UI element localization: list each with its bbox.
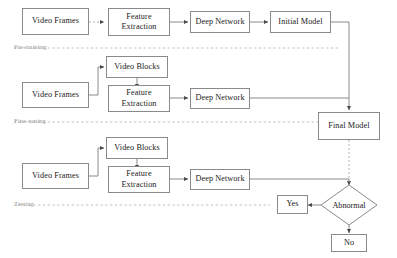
node-feature-extraction-testing[interactable]: Feature Extraction [108,166,170,193]
node-no-outcome[interactable]: No [331,234,367,252]
node-video-blocks-testing[interactable]: Video Blocks [106,137,168,159]
node-video-frames-fine-tuning[interactable]: Video Frames [22,82,89,108]
node-label: Video Frames [32,172,79,181]
node-label: Video Blocks [114,63,160,72]
node-deep-network-testing[interactable]: Deep Network [190,169,250,190]
node-label-line2: Extraction [121,22,156,32]
node-label: Deep Network [195,18,244,27]
node-label: Abnormal [332,201,365,210]
node-label: Deep Network [195,94,244,103]
node-yes-outcome[interactable]: Yes [277,195,308,214]
node-abnormal-decision[interactable]: Abnormal [321,198,377,212]
node-label: Yes [286,200,298,209]
node-final-model[interactable]: Final Model [318,112,380,140]
node-video-frames-testing[interactable]: Video Frames [22,163,89,189]
phase-label-testing: Testing [14,200,34,207]
node-label: Deep Network [195,175,244,184]
phase-label-fine-tuning: Fine-tuning [14,117,46,124]
phase-label-pre-training: Pre-training [14,43,47,50]
wire-initialmodel-to-finalmodel [331,22,349,110]
node-deep-network-fine-tuning[interactable]: Deep Network [190,88,250,109]
node-label: Final Model [328,122,369,131]
diagram-canvas: Pre-training Fine-tuning Testing Video F… [0,0,397,258]
node-label: No [344,239,354,248]
wire-frames2-to-blocks1 [89,67,104,95]
node-label-line1: Feature [126,88,151,98]
node-feature-extraction-fine-tuning[interactable]: Feature Extraction [108,85,170,112]
node-label: Video Frames [32,17,79,26]
node-label-line2: Extraction [121,180,156,190]
node-label: Video Frames [32,91,79,100]
node-label-line1: Feature [126,169,151,179]
wire-deepnet3-to-abnormal [250,179,349,185]
node-label: Initial Model [278,18,322,27]
node-video-blocks-fine-tuning[interactable]: Video Blocks [106,56,168,78]
node-video-frames-pre-training[interactable]: Video Frames [22,8,89,35]
node-label: Video Blocks [114,144,160,153]
node-label-line2: Extraction [121,99,156,109]
wire-frames3-to-blocks2 [89,148,104,176]
node-deep-network-pre-training[interactable]: Deep Network [190,11,250,33]
node-feature-extraction-pre-training[interactable]: Feature Extraction [108,8,170,36]
node-label-line1: Feature [126,12,151,22]
node-initial-model[interactable]: Initial Model [270,11,331,33]
